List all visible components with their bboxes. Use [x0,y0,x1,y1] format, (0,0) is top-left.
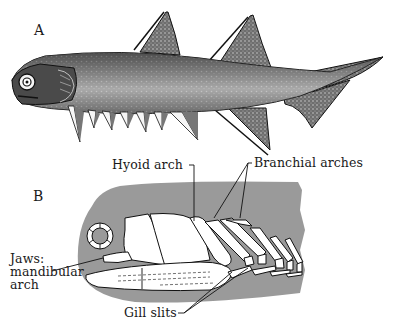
panel-label-b: B [33,188,43,204]
label-hyoid-arch: Hyoid arch [112,158,183,171]
label-branchial-arches: Branchial arches [254,156,363,169]
first-dorsal-fin [140,12,180,55]
anal-fin [228,108,270,150]
fish-drawing [12,12,383,155]
skeleton-diagram [52,163,305,313]
label-jaws-line3: arch [10,278,39,291]
label-gill-slits: Gill slits [124,306,177,319]
figure: A B Hyoid arch Branchial arches Jaws: ma… [0,0,396,327]
panel-label-a: A [34,22,44,38]
